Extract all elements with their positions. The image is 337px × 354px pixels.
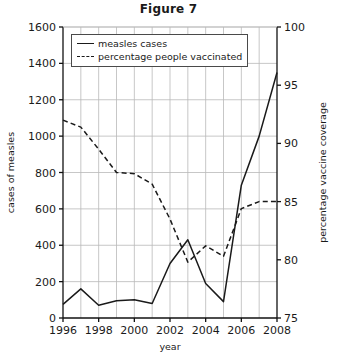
svg-text:2008: 2008	[263, 324, 291, 337]
svg-text:1996: 1996	[49, 324, 77, 337]
svg-text:95: 95	[284, 79, 298, 92]
chart-legend: measles cases percentage people vaccinat…	[71, 34, 248, 67]
svg-text:2002: 2002	[156, 324, 184, 337]
svg-text:800: 800	[35, 167, 56, 180]
figure-7-chart: Figure 7 0200400600800100012001400160075…	[0, 0, 337, 354]
svg-text:600: 600	[35, 203, 56, 216]
legend-label: measles cases	[98, 38, 167, 49]
legend-swatch-dashed-line-icon	[77, 52, 94, 61]
svg-text:1600: 1600	[28, 21, 56, 34]
svg-text:2006: 2006	[227, 324, 255, 337]
svg-text:400: 400	[35, 239, 56, 252]
svg-text:1400: 1400	[28, 57, 56, 70]
svg-text:200: 200	[35, 276, 56, 289]
svg-text:100: 100	[284, 21, 305, 34]
axis-tick-labels: 0200400600800100012001400160075808590951…	[28, 21, 305, 337]
svg-text:1000: 1000	[28, 130, 56, 143]
svg-text:2000: 2000	[120, 324, 148, 337]
x-axis-label: year	[159, 341, 180, 352]
legend-swatch-solid-line-icon	[77, 39, 94, 48]
y-axis-label-left: cases of measles	[5, 132, 16, 213]
svg-text:85: 85	[284, 196, 298, 209]
svg-text:1200: 1200	[28, 94, 56, 107]
y-axis-label-right: percentage vaccine coverage	[317, 102, 328, 243]
svg-text:1998: 1998	[85, 324, 113, 337]
gridlines	[63, 27, 277, 318]
legend-item-percentage-vaccinated: percentage people vaccinated	[77, 50, 242, 63]
legend-item-measles-cases: measles cases	[77, 37, 242, 50]
svg-text:80: 80	[284, 254, 298, 267]
svg-text:2004: 2004	[192, 324, 220, 337]
legend-label: percentage people vaccinated	[98, 51, 242, 62]
svg-text:90: 90	[284, 137, 298, 150]
